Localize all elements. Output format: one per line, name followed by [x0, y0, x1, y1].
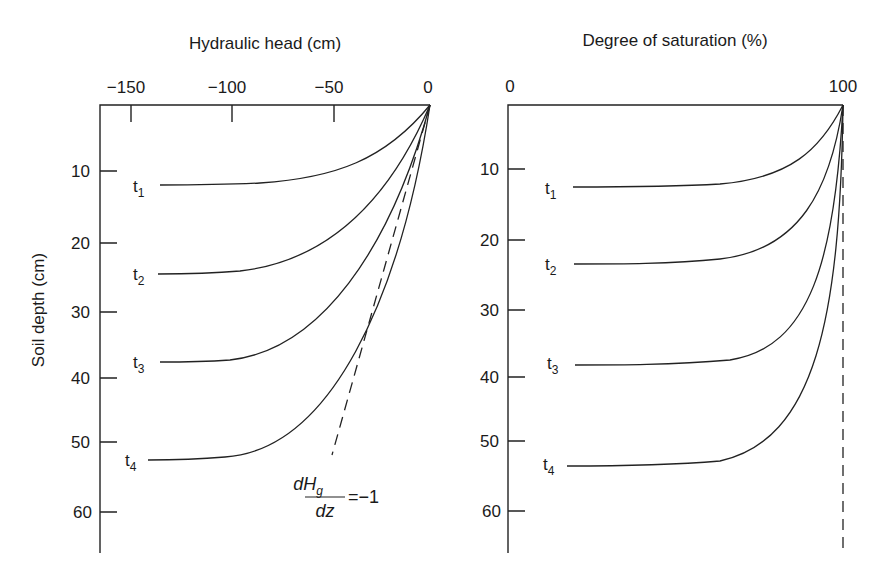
- right-y-tick: 20: [480, 231, 499, 250]
- left-x-tick: −100: [208, 78, 246, 97]
- left-label-t1: t1: [133, 177, 145, 200]
- right-x-tick: 0: [505, 77, 514, 96]
- left-y-tick: 20: [71, 234, 90, 253]
- left-y-tick: 50: [71, 433, 90, 452]
- left-y-ticks: [100, 171, 117, 512]
- left-label-t2: t2: [133, 265, 145, 288]
- left-x-tick: 0: [423, 78, 432, 97]
- right-panel: Degree of saturation (%) 0 100 10 20 30 …: [480, 31, 857, 553]
- right-label-t3: t3: [547, 354, 559, 377]
- left-curve-t4: [148, 105, 430, 460]
- left-label-t3: t3: [133, 353, 145, 376]
- right-y-tick: 60: [482, 502, 501, 521]
- right-y-tick: 10: [480, 160, 499, 179]
- right-y-tick: 40: [480, 368, 499, 387]
- annotation-numerator: dHg: [293, 474, 323, 498]
- right-curve-t4: [567, 105, 843, 466]
- annotation-denominator: dz: [315, 501, 334, 521]
- left-y-tick: 30: [71, 303, 90, 322]
- left-y-tick: 10: [71, 162, 90, 181]
- left-axes: [100, 105, 430, 553]
- right-y-tick: 30: [480, 301, 499, 320]
- annotation-rhs: =−1: [348, 487, 379, 507]
- unit-gradient-line: [332, 105, 430, 455]
- left-y-tick: 40: [71, 369, 90, 388]
- right-x-axis-title: Degree of saturation (%): [582, 31, 767, 50]
- left-y-tick: 60: [73, 503, 92, 522]
- right-y-tick: 50: [480, 432, 499, 451]
- left-x-axis-title: Hydraulic head (cm): [189, 34, 341, 53]
- right-curve-t3: [575, 105, 843, 365]
- gradient-annotation: dHg dz =−1: [293, 474, 379, 521]
- left-panel: Hydraulic head (cm) −150 −100 −50 0 10 2…: [29, 34, 433, 553]
- y-axis-title: Soil depth (cm): [29, 253, 48, 367]
- figure: Hydraulic head (cm) −150 −100 −50 0 10 2…: [0, 0, 883, 575]
- left-curve-t1: [160, 105, 430, 185]
- left-x-tick: −150: [107, 78, 145, 97]
- right-label-t4: t4: [543, 455, 555, 478]
- right-axes: [508, 105, 843, 553]
- right-label-t2: t2: [545, 255, 557, 278]
- right-y-ticks: [508, 169, 525, 511]
- left-x-ticks: [131, 105, 334, 122]
- left-x-tick: −50: [315, 78, 344, 97]
- right-label-t1: t1: [545, 179, 557, 202]
- right-curve-t1: [573, 105, 843, 187]
- left-label-t4: t4: [125, 451, 137, 474]
- right-x-tick: 100: [829, 77, 857, 96]
